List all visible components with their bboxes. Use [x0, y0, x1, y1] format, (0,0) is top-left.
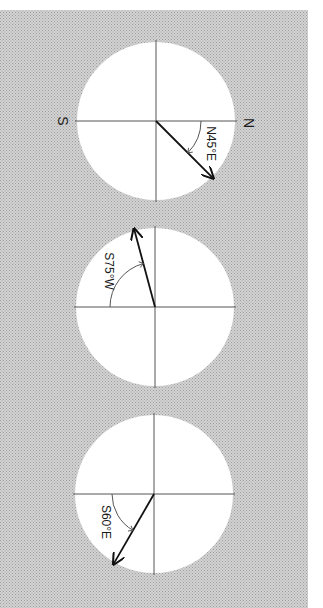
bearing-label: S60°E — [99, 505, 113, 539]
bearing-label: S75°W — [102, 252, 116, 290]
compass-bearings-figure: N45°ENSS75°WS60°E — [0, 0, 323, 608]
bearing-label: N45°E — [204, 126, 218, 161]
north-label: N — [241, 118, 257, 128]
south-label: S — [55, 116, 71, 125]
compass-layer: N45°ENSS75°WS60°E — [55, 40, 257, 575]
